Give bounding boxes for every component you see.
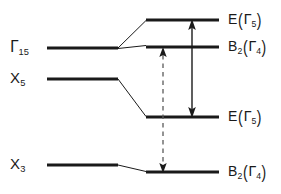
paren-open-icon: ( (242, 37, 248, 56)
connector-gamma15-to-b2-upper (118, 46, 146, 49)
left-level-lines (47, 48, 118, 165)
left-label-x5-symbol: X (10, 69, 20, 86)
right-label-e-gamma5-upper-main: E (228, 11, 238, 27)
right-label-e-gamma5-upper: E(Γ5) (228, 12, 262, 28)
correlation-connectors (118, 21, 146, 172)
left-label-x5: X5 (10, 70, 25, 88)
paren-open-icon: ( (238, 10, 244, 29)
connector-x5-to-e-lower (118, 79, 146, 117)
transition-arrow-dashed (159, 47, 166, 173)
right-label-b2-gamma4-upper-main: B (228, 38, 238, 54)
left-label-gamma15: Γ15 (10, 39, 29, 57)
energy-level-diagram: Γ15 X5 X3 E(Γ5) B2(Γ4) E(Γ5) B2(Γ4) (0, 0, 281, 194)
left-label-x3-symbol: X (10, 155, 20, 172)
left-label-gamma15-subscript: 15 (19, 47, 29, 57)
paren-close-icon: ) (261, 37, 267, 56)
paren-close-icon: ) (261, 162, 267, 181)
right-label-e-gamma5-lower: E(Γ5) (228, 109, 262, 125)
right-label-b2-gamma4-upper: B2(Γ4) (228, 39, 267, 55)
right-label-b2-gamma4-lower-main: B (228, 163, 238, 179)
right-label-b2-gamma4-lower: B2(Γ4) (228, 164, 267, 180)
paren-open-icon: ( (238, 107, 244, 126)
right-level-lines (146, 20, 219, 172)
paren-open-icon: ( (242, 162, 248, 181)
left-label-x3-subscript: 3 (20, 164, 25, 174)
transition-arrow-solid (188, 19, 196, 118)
connector-gamma15-to-e-upper (118, 21, 146, 49)
left-label-x5-subscript: 5 (20, 78, 25, 88)
paren-close-icon: ) (256, 10, 262, 29)
paren-close-icon: ) (256, 107, 262, 126)
connector-x3-to-b2-lower (118, 165, 146, 172)
right-label-e-gamma5-lower-main: E (228, 108, 238, 124)
left-label-x3: X3 (10, 156, 25, 174)
left-label-gamma15-symbol: Γ (10, 38, 19, 56)
